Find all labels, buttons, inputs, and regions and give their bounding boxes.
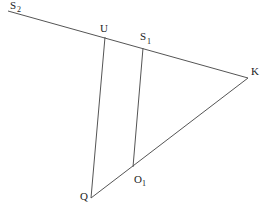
label-o1: O 1 <box>134 173 146 188</box>
label-u: U <box>100 22 108 34</box>
line-s1-o1 <box>133 48 143 167</box>
svg-text:O: O <box>134 173 142 185</box>
svg-text:S: S <box>140 30 146 42</box>
svg-text:2: 2 <box>17 5 21 14</box>
line-s2-k <box>8 11 248 78</box>
svg-text:1: 1 <box>147 37 151 46</box>
svg-text:U: U <box>100 22 108 34</box>
svg-text:S: S <box>10 0 16 11</box>
line-u-q <box>91 37 105 198</box>
geometry-diagram: S 2 U S 1 K Q O 1 <box>0 0 263 213</box>
svg-text:K: K <box>251 65 259 77</box>
label-s1: S 1 <box>140 30 151 46</box>
label-k: K <box>251 65 259 77</box>
svg-text:Q: Q <box>80 190 88 202</box>
line-k-q <box>91 78 248 198</box>
label-q: Q <box>80 190 88 202</box>
svg-text:1: 1 <box>142 179 146 188</box>
